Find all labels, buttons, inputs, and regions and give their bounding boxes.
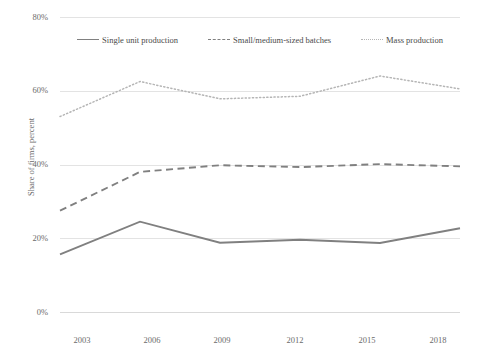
series-mass-production [60, 76, 460, 117]
legend-label-mass-production: Mass production [386, 35, 443, 45]
series-small-medium-batches [60, 164, 460, 210]
x-tick-2003: 2003 [52, 335, 112, 345]
x-tick-2012: 2012 [265, 335, 325, 345]
legend-label-single-unit-production: Single unit production [102, 35, 178, 45]
legend-item-small-medium-batches: Small/medium-sized batches [208, 35, 331, 45]
x-tick-2006: 2006 [122, 335, 182, 345]
legend-label-small-medium-batches: Small/medium-sized batches [233, 35, 331, 45]
plot-area: 2003 2006 2009 2012 2015 2018 [60, 17, 460, 312]
y-tick-60: 60% [14, 85, 48, 95]
x-tick-2009: 2009 [192, 335, 252, 345]
y-tick-0: 0% [14, 307, 48, 317]
x-tick-2015: 2015 [337, 335, 397, 345]
x-tick-2018: 2018 [408, 335, 468, 345]
chart-legend: Single unit production Small/medium-size… [60, 32, 460, 48]
gridline-0 [60, 312, 460, 313]
legend-item-single-unit-production: Single unit production [77, 35, 178, 45]
y-axis-title: Share of firms, percent [26, 118, 36, 196]
legend-swatch-solid-line-icon [77, 36, 99, 44]
series-single-unit-production [60, 222, 460, 255]
y-tick-40: 40% [14, 159, 48, 169]
legend-swatch-dotted-line-icon [361, 36, 383, 44]
series-layer [60, 17, 460, 312]
legend-item-mass-production: Mass production [361, 35, 443, 45]
legend-swatch-dashed-line-icon [208, 36, 230, 44]
y-tick-80: 80% [14, 12, 48, 22]
y-tick-20: 20% [14, 233, 48, 243]
